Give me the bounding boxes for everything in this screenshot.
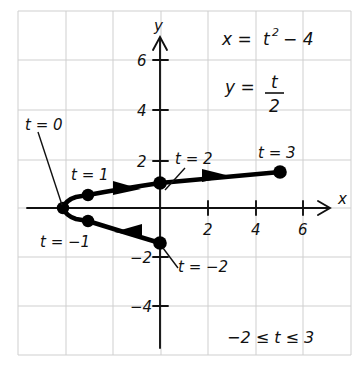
y-axis-label: y <box>153 17 164 35</box>
x-axis-label: x <box>337 190 347 208</box>
equation-y-lhs: y = <box>224 77 255 97</box>
y-tick-label-neg4: −4 <box>130 298 152 316</box>
equation-x: x = t 2 − 4 <box>221 26 313 49</box>
t-label-neg1: t = −1 <box>40 233 90 251</box>
y-tick-label-6: 6 <box>137 52 147 70</box>
y-tick-label-4: 4 <box>137 102 147 120</box>
graph-figure: x y 2 4 6 6 4 2 −2 −4 <box>0 0 362 373</box>
y-tick-label-neg2: −2 <box>130 249 152 267</box>
t-label-3: t = 3 <box>258 144 296 162</box>
data-point-t1 <box>82 189 94 201</box>
data-point-t2 <box>153 176 167 190</box>
t-label-1: t = 1 <box>71 166 109 184</box>
paper-background <box>0 0 362 373</box>
data-point-t0 <box>57 202 69 214</box>
parameter-range-label: −2 ≤ t ≤ 3 <box>227 328 314 347</box>
equation-x-tail: − 4 <box>283 29 313 49</box>
parametric-curve-plot: x y 2 4 6 6 4 2 −2 −4 <box>0 0 362 373</box>
data-point-tneg2 <box>153 236 167 250</box>
t-label-0: t = 0 <box>25 116 63 134</box>
data-point-tneg1 <box>82 215 94 227</box>
equation-y-denominator: 2 <box>269 96 280 116</box>
data-point-t3 <box>273 165 287 179</box>
t-label-neg2: t = −2 <box>178 258 228 276</box>
x-tick-label-2: 2 <box>203 221 213 239</box>
equation-x-exponent: 2 <box>272 26 279 39</box>
y-tick-label-2: 2 <box>137 153 147 171</box>
t-label-2: t = 2 <box>175 150 213 168</box>
x-tick-label-6: 6 <box>298 221 308 239</box>
x-tick-label-4: 4 <box>251 221 261 239</box>
equation-x-lhs: x = <box>221 29 252 49</box>
